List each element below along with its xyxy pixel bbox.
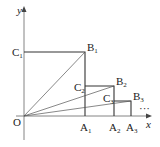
y-axis-arrow-icon	[22, 6, 27, 12]
continuation-ellipsis: ···	[139, 102, 150, 114]
labels: y x O C1 B1 A1 C2 B2 A2 C3 B3 A3 ···	[12, 4, 151, 135]
label-A3: A3	[126, 121, 138, 135]
origin-label: O	[13, 116, 21, 128]
diagram-canvas: y x O C1 B1 A1 C2 B2 A2 C3 B3 A3 ···	[0, 0, 160, 147]
y-axis-label: y	[16, 4, 22, 16]
axes	[16, 6, 152, 140]
label-A1: A1	[80, 121, 92, 135]
diagonal-O-B3	[24, 101, 131, 116]
x-axis-label: x	[145, 118, 151, 130]
label-C1: C1	[12, 46, 23, 60]
label-C2: C2	[74, 81, 85, 95]
diagonal-O-B2	[24, 86, 114, 116]
label-B2: B2	[116, 75, 127, 89]
label-A2: A2	[109, 121, 121, 135]
label-C3: C3	[103, 92, 114, 106]
label-B1: B1	[87, 41, 98, 55]
